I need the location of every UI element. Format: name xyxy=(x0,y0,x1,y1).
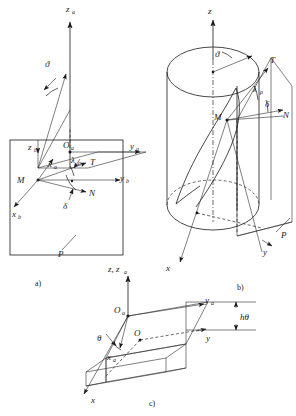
panel-a: z a ϑ z b O a y a x a λ ρ T y b M N δ x … xyxy=(10,4,146,259)
label-z-za-c: z, z xyxy=(107,264,120,274)
caption-b: b) xyxy=(237,283,244,292)
caption-c: c) xyxy=(149,399,156,408)
plane-P-rect-a xyxy=(10,140,123,255)
angle-vartheta-arc-b xyxy=(222,52,232,58)
helix-curve-front-b xyxy=(176,88,236,204)
label-za-sub-a: a xyxy=(72,9,75,15)
axis-y-arrow-b xyxy=(262,240,272,246)
label-theta-c: θ xyxy=(97,333,102,343)
panel-b: z ϑ T λ ρ δ M N P y x xyxy=(165,6,292,273)
label-lambda-sub-b: ρ xyxy=(259,89,263,95)
label-yb-sub-a: b xyxy=(126,178,129,184)
ref-horizontal-b xyxy=(227,116,284,120)
label-y-b: y xyxy=(262,247,267,257)
label-P-a: P xyxy=(57,249,64,259)
label-x-b: x xyxy=(165,263,170,273)
label-delta-a: δ xyxy=(63,201,68,211)
label-lambda-b: λ xyxy=(252,84,257,94)
label-vartheta-a: ϑ xyxy=(45,59,50,69)
slab-left-face-c xyxy=(86,358,106,386)
label-lambda-a: λ xyxy=(70,155,75,165)
label-xb-sub-a: b xyxy=(18,214,21,220)
angle-vartheta-arc-a xyxy=(46,88,58,96)
leader-P-a xyxy=(62,235,76,250)
label-N-b: N xyxy=(282,110,290,120)
caption-a: a) xyxy=(35,279,42,288)
label-ya-c: y xyxy=(204,295,209,305)
label-lambda-sub-a: ρ xyxy=(77,160,81,166)
label-xb-a: x xyxy=(11,209,16,219)
label-xa-sub-c: a xyxy=(113,357,116,363)
label-htheta-c: hθ xyxy=(240,312,250,322)
label-z-b: z xyxy=(207,6,212,16)
label-Oa-a: O xyxy=(63,140,70,150)
label-ya-sub-c: a xyxy=(211,300,214,306)
technical-figure-root: z a ϑ z b O a y a x a λ ρ T y b M N δ x … xyxy=(0,0,296,416)
vector-N-a xyxy=(38,180,86,192)
label-Oa-c: O xyxy=(114,305,121,315)
label-O-c: O xyxy=(134,328,141,338)
label-P-b: P xyxy=(280,230,287,240)
label-M-b: M xyxy=(213,112,222,122)
point-top-center-b xyxy=(212,71,215,74)
label-za-a: z xyxy=(65,4,70,14)
label-Oa-sub-c: a xyxy=(122,310,125,316)
label-ya-a: y xyxy=(129,141,134,151)
point-mid-a xyxy=(71,180,73,182)
vector-xa-c xyxy=(120,316,128,348)
helix-curve-tail-b xyxy=(176,186,200,204)
angle-delta-arc-a xyxy=(66,175,76,190)
inclined-ray-upper-a xyxy=(38,74,66,168)
slab-bottom-edge-c xyxy=(86,368,186,386)
label-M-a: M xyxy=(16,175,25,185)
point-base-center-b xyxy=(196,212,199,215)
label-za-sub-c: a xyxy=(124,269,127,275)
figure-svg: z a ϑ z b O a y a x a λ ρ T y b M N δ x … xyxy=(0,0,296,416)
axis-ya-c xyxy=(128,304,204,316)
label-xa-a: x xyxy=(47,159,52,169)
axis-x-b xyxy=(180,120,227,262)
slab-top-edge-c xyxy=(86,344,186,372)
label-zb-a: z xyxy=(27,142,32,152)
figure-captions: a) b) c) xyxy=(35,279,244,408)
label-xa-sub-a: a xyxy=(54,164,57,170)
angle-delta-pointer-a xyxy=(69,189,73,200)
label-x-c: x xyxy=(90,395,95,405)
inclined-ray-lower-a xyxy=(38,110,70,168)
label-T-a: T xyxy=(90,157,96,167)
label-delta-b: δ xyxy=(265,99,270,109)
label-N-a: N xyxy=(88,188,96,198)
label-y-c: y xyxy=(205,333,210,343)
point-M-b xyxy=(225,118,228,121)
label-Oa-sub-a: a xyxy=(71,145,74,151)
line-to-y-b xyxy=(227,120,262,252)
tangent-plane-P-b xyxy=(237,58,292,236)
angle-vartheta-pointer-a xyxy=(44,78,56,90)
label-ya-sub-a: a xyxy=(136,146,139,152)
panel-c: z, z a O a y a θ O hθ y x a x xyxy=(84,264,256,405)
vector-N-b xyxy=(227,110,283,120)
label-yb-a: y xyxy=(119,173,124,183)
label-xa-c: x xyxy=(106,352,111,362)
label-vartheta-b: ϑ xyxy=(215,49,220,59)
label-zb-sub-a: b xyxy=(34,147,37,153)
